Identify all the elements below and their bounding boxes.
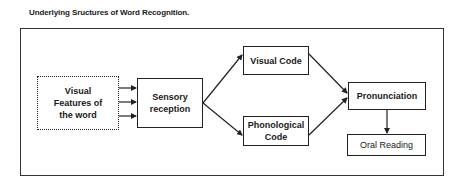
node-visual-features-line2: Features of	[54, 97, 103, 109]
node-visual-code-label: Visual Code	[250, 55, 301, 67]
node-sensory-reception: Sensory reception	[137, 78, 203, 128]
node-phonological-code: Phonological Code	[243, 116, 309, 146]
node-visual-code: Visual Code	[243, 46, 309, 75]
node-oral-reading: Oral Reading	[347, 134, 426, 156]
node-pronunciation-label: Pronunciation	[357, 90, 418, 102]
node-oral-reading-label: Oral Reading	[360, 139, 413, 151]
node-sensory-line2: reception	[150, 103, 191, 115]
node-pronunciation: Pronunciation	[348, 82, 426, 110]
node-phonological-line1: Phonological	[248, 119, 305, 131]
node-phonological-line2: Code	[248, 131, 305, 143]
node-visual-features-line3: the word	[54, 109, 103, 121]
node-visual-features-line1: Visual	[54, 85, 103, 97]
node-visual-features: Visual Features of the word	[37, 76, 119, 130]
node-sensory-line1: Sensory	[150, 91, 191, 103]
